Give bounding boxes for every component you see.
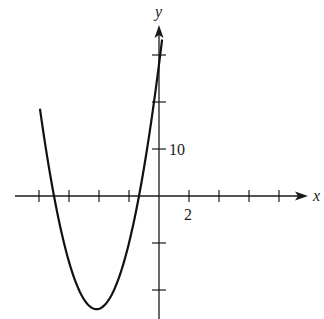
parabola-curve [40, 40, 162, 309]
y-axis-label: y [153, 3, 163, 21]
graph: x y 2 10 [0, 0, 324, 319]
y-tick-label-10: 10 [169, 141, 185, 158]
x-axis-label: x [312, 187, 320, 204]
x-tick-label-2: 2 [184, 206, 192, 223]
